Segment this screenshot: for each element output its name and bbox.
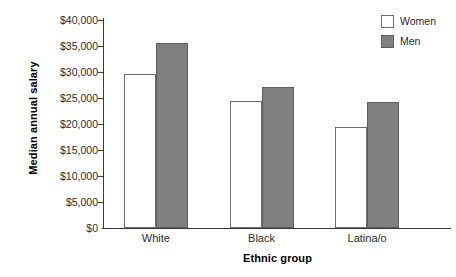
y-axis-tick-mark	[98, 150, 103, 151]
y-axis-tick-label: $25,000	[26, 92, 98, 104]
y-axis-tick-label: $35,000	[26, 40, 98, 52]
chart-legend: WomenMen	[381, 13, 436, 53]
y-axis-tick-label: $40,000	[26, 14, 98, 26]
y-axis-tick-label: $0	[26, 222, 98, 234]
bar-men-white	[156, 43, 188, 228]
y-axis-tick-mark	[98, 98, 103, 99]
x-axis-tick-label: Black	[248, 232, 275, 244]
legend-swatch-men-icon	[381, 35, 394, 48]
y-axis-tick-labels: $0$5,000$10,000$15,000$20,000$25,000$30,…	[26, 0, 98, 277]
y-axis-tick-label: $30,000	[26, 66, 98, 78]
y-axis-tick-label: $5,000	[26, 196, 98, 208]
plot-area	[103, 20, 420, 228]
legend-item-women: Women	[381, 13, 436, 29]
bar-women-white	[124, 74, 156, 228]
y-axis-tick-mark	[98, 124, 103, 125]
legend-label: Men	[400, 35, 420, 47]
bar-women-black	[230, 101, 262, 228]
bar-women-latina-o	[335, 127, 367, 228]
bar-group-white	[124, 20, 188, 228]
y-axis-tick-mark	[98, 20, 103, 21]
y-axis-tick-label: $10,000	[26, 170, 98, 182]
bar-men-latina-o	[367, 102, 399, 228]
x-axis-tick-label: Latina/o	[348, 232, 387, 244]
y-axis-tick-mark	[98, 176, 103, 177]
bar-chart: Median annual salary $0$5,000$10,000$15,…	[0, 0, 456, 277]
bar-men-black	[262, 87, 294, 228]
legend-label: Women	[400, 15, 436, 27]
bar-group-black	[230, 20, 294, 228]
x-axis-title: Ethnic group	[103, 252, 452, 264]
y-axis-tick-label: $15,000	[26, 144, 98, 156]
legend-swatch-women-icon	[381, 15, 394, 28]
x-axis-tick-labels: WhiteBlackLatina/o	[103, 232, 452, 250]
y-axis-line	[103, 18, 104, 229]
y-axis-tick-label: $20,000	[26, 118, 98, 130]
y-axis-tick-mark	[98, 202, 103, 203]
y-axis-tick-mark	[98, 46, 103, 47]
x-axis-tick-label: White	[142, 232, 170, 244]
legend-item-men: Men	[381, 33, 436, 49]
y-axis-tick-mark	[98, 72, 103, 73]
